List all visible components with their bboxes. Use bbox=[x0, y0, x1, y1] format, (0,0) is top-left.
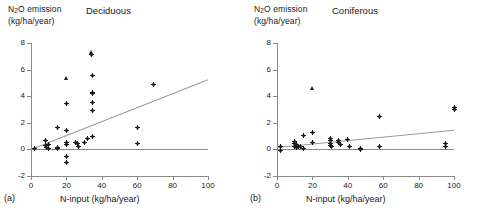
data-point bbox=[347, 144, 352, 149]
y-tick bbox=[27, 70, 31, 71]
y-axis-label-line2: (kg/ha/year) bbox=[254, 16, 301, 26]
y-tick bbox=[27, 43, 31, 44]
y-axis-line bbox=[31, 43, 32, 176]
data-point bbox=[329, 144, 334, 149]
data-point bbox=[443, 144, 448, 149]
data-point bbox=[310, 140, 315, 145]
data-point bbox=[90, 73, 95, 78]
x-tick-label: 80 bbox=[161, 182, 185, 190]
data-point bbox=[64, 128, 69, 133]
data-point bbox=[301, 146, 306, 151]
plot-area-deciduous: -202468 020406080100 bbox=[31, 43, 208, 176]
data-point bbox=[338, 142, 343, 147]
data-point bbox=[90, 134, 95, 139]
data-point bbox=[358, 147, 363, 152]
x-tick bbox=[419, 176, 420, 180]
data-point bbox=[76, 144, 81, 149]
data-point bbox=[55, 146, 60, 151]
data-point bbox=[64, 154, 69, 159]
data-point bbox=[135, 125, 140, 130]
y-tick-label: 6 bbox=[253, 66, 271, 74]
y-tick-label: -2 bbox=[253, 172, 271, 180]
x-tick bbox=[173, 176, 174, 180]
data-point bbox=[452, 107, 457, 112]
x-axis-line bbox=[31, 176, 208, 177]
x-tick-label: 60 bbox=[125, 182, 149, 190]
x-tick bbox=[277, 176, 278, 180]
data-point bbox=[64, 142, 69, 147]
y-tick-label: 6 bbox=[7, 66, 25, 74]
y-tick-label: 0 bbox=[7, 145, 25, 153]
y-tick-label: -2 bbox=[7, 172, 25, 180]
x-tick bbox=[137, 176, 138, 180]
y-axis-label-line2: (kg/ha/year) bbox=[8, 16, 55, 26]
x-tick bbox=[31, 176, 32, 180]
x-tick-label: 40 bbox=[90, 182, 114, 190]
x-tick-label: 0 bbox=[19, 182, 43, 190]
y-tick bbox=[273, 96, 277, 97]
y-tick bbox=[273, 70, 277, 71]
panel-deciduous: N2O emission (kg/ha/year) Deciduous -202… bbox=[0, 0, 246, 217]
panel-id-a: (a) bbox=[4, 193, 15, 203]
data-point bbox=[278, 148, 283, 153]
x-tick-label: 100 bbox=[196, 182, 220, 190]
y-tick bbox=[27, 96, 31, 97]
y-axis-line bbox=[277, 43, 278, 176]
data-point bbox=[64, 101, 69, 106]
x-tick-label: 20 bbox=[54, 182, 78, 190]
data-point bbox=[90, 108, 95, 113]
x-tick bbox=[208, 176, 209, 180]
y-tick-label: 4 bbox=[7, 92, 25, 100]
data-point bbox=[85, 136, 90, 141]
data-point bbox=[64, 76, 69, 81]
y-tick-label: 2 bbox=[7, 119, 25, 127]
x-tick-label: 20 bbox=[300, 182, 324, 190]
y-tick bbox=[27, 123, 31, 124]
y-tick bbox=[273, 123, 277, 124]
data-point bbox=[89, 52, 94, 57]
x-tick-label: 40 bbox=[336, 182, 360, 190]
x-tick-label: 0 bbox=[265, 182, 289, 190]
data-point bbox=[301, 133, 306, 138]
data-point bbox=[55, 125, 60, 130]
data-point bbox=[377, 114, 382, 119]
x-axis-caption-coniferous: N-input (kg/ha/year) bbox=[306, 194, 386, 204]
data-point bbox=[377, 144, 382, 149]
data-point bbox=[64, 160, 69, 165]
panel-title-deciduous: Deciduous bbox=[86, 5, 131, 16]
panel-title-coniferous: Coniferous bbox=[332, 5, 378, 16]
y-tick bbox=[273, 43, 277, 44]
data-point bbox=[90, 91, 95, 96]
data-point bbox=[151, 82, 156, 87]
x-tick bbox=[312, 176, 313, 180]
x-tick-label: 60 bbox=[371, 182, 395, 190]
data-point bbox=[135, 141, 140, 146]
y-tick-label: 0 bbox=[253, 145, 271, 153]
data-point bbox=[32, 146, 37, 151]
data-point bbox=[90, 100, 95, 105]
x-axis-caption-deciduous: N-input (kg/ha/year) bbox=[60, 194, 140, 204]
x-tick-label: 100 bbox=[442, 182, 466, 190]
regression-line bbox=[31, 79, 208, 150]
x-tick bbox=[348, 176, 349, 180]
y-tick-label: 8 bbox=[7, 39, 25, 47]
figure-two-panel-scatter: N2O emission (kg/ha/year) Deciduous -202… bbox=[0, 0, 492, 217]
panel-id-b: (b) bbox=[250, 193, 261, 203]
data-point bbox=[310, 86, 315, 91]
y-tick-label: 8 bbox=[253, 39, 271, 47]
y-axis-label-deciduous: N2O emission (kg/ha/year) bbox=[8, 4, 61, 27]
x-tick bbox=[454, 176, 455, 180]
y-axis-label-line1: N2O emission bbox=[8, 4, 61, 14]
data-point bbox=[46, 146, 51, 151]
panel-coniferous: N2O emission (kg/ha/year) Coniferous -20… bbox=[246, 0, 492, 217]
y-axis-label-coniferous: N2O emission (kg/ha/year) bbox=[254, 4, 307, 27]
x-axis-line bbox=[277, 176, 454, 177]
x-tick bbox=[66, 176, 67, 180]
y-tick-label: 4 bbox=[253, 92, 271, 100]
y-tick-label: 2 bbox=[253, 119, 271, 127]
x-tick bbox=[102, 176, 103, 180]
y-axis-label-line1: N2O emission bbox=[254, 4, 307, 14]
data-point bbox=[310, 130, 315, 135]
x-tick-label: 80 bbox=[407, 182, 431, 190]
plot-area-coniferous: -202468 020406080100 bbox=[277, 43, 454, 176]
